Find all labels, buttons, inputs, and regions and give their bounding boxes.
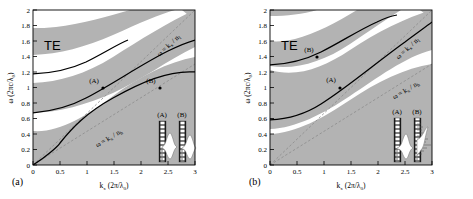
ytick-2: 0.4 [258, 131, 267, 139]
xtick-1: 0.5 [293, 168, 302, 176]
xtick-2: 1 [85, 168, 89, 176]
xtick-6: 3 [193, 168, 197, 176]
xtick-5: 2.5 [401, 168, 410, 176]
ytick-10: 2 [264, 7, 268, 15]
ytick-4: 0.8 [258, 100, 267, 108]
marker-point-b [315, 55, 318, 58]
panel-a-plot: (A) (B) ω = kx / nl ω = kx / nh TE (A) [0, 0, 236, 199]
inset-a-label: (A) [157, 111, 167, 119]
panel-b-tag: (b) [249, 176, 261, 188]
panel-b: (A) (B) ω = kx / nl ω = kx / nh TE (A) [237, 0, 473, 199]
panel-a: (A) (B) ω = kx / nl ω = kx / nh TE (A) [0, 0, 236, 199]
marker-label-a: (A) [326, 76, 336, 84]
ytick-6: 1.2 [21, 69, 30, 77]
inset-b-label: (B) [177, 111, 187, 119]
ytick-5: 1 [264, 84, 268, 92]
ytick-9: 1.8 [21, 22, 30, 30]
ytick-7: 1.4 [258, 53, 267, 61]
xtick-2: 1 [322, 168, 326, 176]
xtick-4: 2 [376, 168, 380, 176]
inset-a-label: (A) [392, 108, 402, 116]
ytick-5: 1 [27, 84, 31, 92]
xtick-5: 2.5 [164, 168, 173, 176]
ytick-0: 0 [27, 162, 31, 170]
xtick-1: 0.5 [56, 168, 65, 176]
ytick-0: 0 [264, 162, 268, 170]
marker-point-a [101, 86, 104, 89]
xtick-6: 3 [430, 168, 434, 176]
panel-b-plot: (A) (B) ω = kx / nl ω = kx / nh TE (A) [237, 0, 473, 199]
ytick-8: 1.6 [258, 38, 267, 46]
ytick-10: 2 [27, 7, 31, 15]
ytick-3: 0.6 [258, 115, 267, 123]
ytick-9: 1.8 [258, 22, 267, 30]
ytick-6: 1.2 [258, 69, 267, 77]
polarization-label: TE [281, 38, 298, 53]
polarization-label: TE [44, 38, 61, 53]
xtick-4: 2 [139, 168, 143, 176]
ytick-1: 0.2 [258, 146, 267, 154]
ytick-4: 0.8 [21, 100, 30, 108]
xtick-0: 0 [268, 168, 272, 176]
ytick-3: 0.6 [21, 115, 30, 123]
xtick-3: 1.5 [347, 168, 356, 176]
marker-point-b [158, 86, 161, 89]
marker-point-a [338, 86, 341, 89]
ytick-7: 1.4 [21, 53, 30, 61]
xtick-3: 1.5 [110, 168, 119, 176]
inset-b-label: (B) [412, 108, 422, 116]
xtick-0: 0 [31, 168, 35, 176]
marker-label-a: (A) [89, 77, 99, 85]
ytick-1: 0.2 [21, 146, 30, 154]
ytick-2: 0.4 [21, 131, 30, 139]
ytick-8: 1.6 [21, 38, 30, 46]
panel-a-tag: (a) [12, 176, 23, 188]
marker-label-b: (B) [304, 46, 314, 54]
marker-label-b: (B) [146, 77, 156, 85]
figure-root: (A) (B) ω = kx / nl ω = kx / nh TE (A) [0, 0, 473, 199]
